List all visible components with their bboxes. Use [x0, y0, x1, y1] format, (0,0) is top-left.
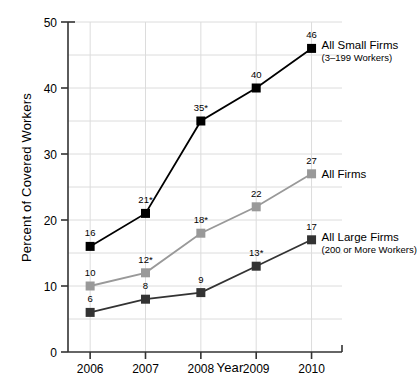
data-point-label: 16 — [85, 227, 96, 238]
data-point-marker — [252, 262, 261, 271]
data-point-label: 27 — [306, 155, 317, 166]
data-point-label: 9 — [198, 274, 203, 285]
y-tick-label: 30 — [44, 148, 58, 162]
legend-series-name: All Large Firms — [322, 231, 400, 243]
data-point-marker — [86, 308, 95, 317]
data-point-label: 46 — [306, 29, 317, 40]
data-point-marker — [86, 242, 95, 251]
data-point-marker — [307, 169, 316, 178]
gridlines — [68, 22, 342, 352]
data-point-label: 10 — [85, 267, 96, 278]
data-point-marker — [141, 295, 150, 304]
legend-series-name: All Firms — [322, 168, 367, 180]
legend-series-sublabel: (200 or More Workers) — [322, 244, 417, 255]
data-point-label: 18* — [194, 214, 209, 225]
data-point-label: 40 — [251, 69, 262, 80]
data-point-marker — [196, 229, 205, 238]
y-tick-label: 0 — [50, 346, 57, 360]
data-point-label: 22 — [251, 188, 262, 199]
data-point-label: 17 — [306, 221, 317, 232]
y-tick-label: 20 — [44, 214, 58, 228]
data-point-label: 21* — [138, 194, 153, 205]
data-point-label: 35* — [194, 102, 209, 113]
chart-canvas: 0102030405020062007200820092010 1621*35*… — [0, 0, 417, 384]
data-point-marker — [196, 117, 205, 126]
x-axis-title: Year — [60, 360, 400, 375]
y-tick-label: 10 — [44, 280, 58, 294]
y-tick-label: 50 — [44, 16, 58, 30]
data-point-marker — [141, 268, 150, 277]
data-point-label: 13* — [249, 247, 264, 258]
data-point-marker — [252, 202, 261, 211]
data-point-marker — [307, 235, 316, 244]
series-legend-labels: All Small Firms(3–199 Workers)All FirmsA… — [322, 39, 417, 254]
data-point-marker — [196, 288, 205, 297]
data-point-label: 6 — [87, 293, 92, 304]
legend-series-name: All Small Firms — [322, 39, 399, 51]
tick-marks — [61, 22, 312, 359]
y-axis-title: Percent of Covered Workers — [19, 78, 34, 278]
y-tick-label: 40 — [44, 82, 58, 96]
data-point-marker — [86, 282, 95, 291]
data-point-label: 12* — [138, 254, 153, 265]
data-point-marker — [252, 84, 261, 93]
data-point-marker — [307, 44, 316, 53]
data-point-label: 8 — [143, 280, 148, 291]
data-point-marker — [141, 209, 150, 218]
line-chart: 0102030405020062007200820092010 1621*35*… — [0, 0, 417, 384]
legend-series-sublabel: (3–199 Workers) — [322, 52, 393, 63]
